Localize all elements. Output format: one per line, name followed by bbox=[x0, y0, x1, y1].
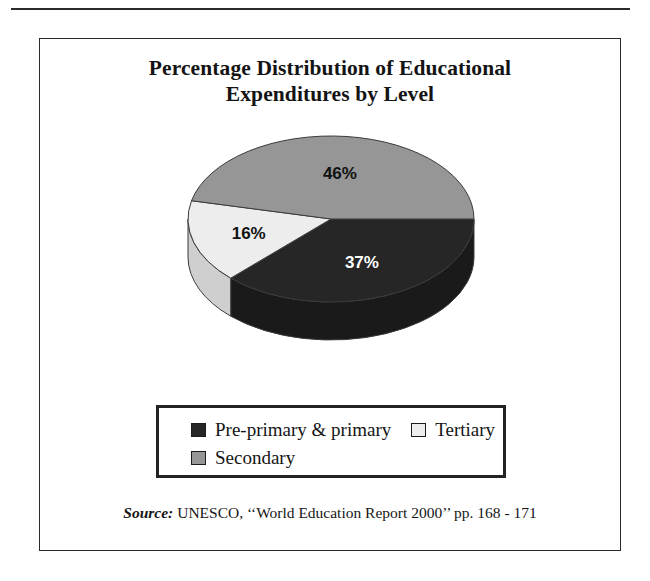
pie-chart-svg: 37%16%46% bbox=[166, 111, 496, 361]
title-line-2: Expenditures by Level bbox=[40, 81, 620, 107]
title-line-1: Percentage Distribution of Educational bbox=[40, 55, 620, 81]
legend-row-2: Secondary bbox=[191, 444, 497, 472]
source-note: Source:UNESCO, ‘‘World Education Report … bbox=[40, 504, 620, 522]
page-title: Percentage Distribution of Educational E… bbox=[40, 55, 620, 107]
pie-slice-label-0: 37% bbox=[345, 253, 379, 272]
legend-swatch-secondary bbox=[191, 451, 206, 465]
figure-frame: Percentage Distribution of Educational E… bbox=[39, 38, 621, 551]
legend-item-pre-primary-and-primary[interactable]: Pre-primary & primary bbox=[191, 420, 391, 440]
pie-slice-label-2: 46% bbox=[323, 164, 357, 183]
legend-label-tertiary: Tertiary bbox=[435, 420, 495, 440]
legend-label-pre-primary-and-primary: Pre-primary & primary bbox=[215, 420, 391, 440]
legend-swatch-tertiary bbox=[411, 423, 426, 437]
legend-swatch-pre-primary-and-primary bbox=[191, 423, 206, 437]
legend-item-secondary[interactable]: Secondary bbox=[191, 448, 295, 468]
legend-item-tertiary[interactable]: Tertiary bbox=[411, 420, 495, 440]
pie-slice-label-1: 16% bbox=[232, 224, 266, 243]
pie-chart: 37%16%46% bbox=[40, 111, 622, 371]
source-text: UNESCO, ‘‘World Education Report 2000’’ … bbox=[177, 504, 537, 521]
legend-label-secondary: Secondary bbox=[215, 448, 295, 468]
chart-legend: Pre-primary & primary Tertiary Secondary bbox=[156, 405, 506, 478]
source-label: Source: bbox=[123, 504, 173, 521]
legend-row-1: Pre-primary & primary Tertiary bbox=[191, 416, 497, 444]
top-divider-rule bbox=[11, 8, 630, 10]
